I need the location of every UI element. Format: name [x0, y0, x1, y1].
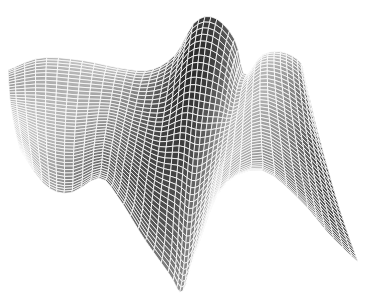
surface-plot [0, 0, 377, 304]
surface-mesh [8, 17, 358, 293]
